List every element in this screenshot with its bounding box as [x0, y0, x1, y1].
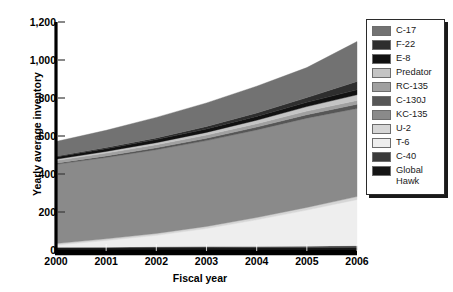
legend-item-label: Predator	[396, 67, 432, 78]
legend-item[interactable]: RC-135	[372, 81, 440, 93]
stacked-area-chart: Yearly average inventory 02004006008001,…	[0, 0, 453, 292]
x-tick-label: 2006	[334, 255, 380, 267]
legend-item-label: Global Hawk	[396, 165, 440, 187]
legend-item-label: KC-135	[396, 109, 428, 120]
legend-swatch-icon	[372, 138, 391, 148]
legend-item[interactable]: C-130J	[372, 95, 440, 107]
legend-item-label: C-40	[396, 151, 416, 162]
x-tick-label: 2004	[234, 255, 280, 267]
legend-item[interactable]: KC-135	[372, 109, 440, 121]
legend-item-label: RC-135	[396, 81, 428, 92]
legend-swatch-icon	[372, 124, 391, 134]
legend-swatch-icon	[372, 82, 391, 92]
legend-item[interactable]: T-6	[372, 137, 440, 149]
legend-item-label: C-17	[396, 25, 416, 36]
legend-swatch-icon	[372, 166, 391, 176]
legend-swatch-icon	[372, 26, 391, 36]
legend-swatch-icon	[372, 68, 391, 78]
legend-item[interactable]: C-17	[372, 25, 440, 37]
x-axis-title: Fiscal year	[40, 272, 360, 284]
legend-item[interactable]: Global Hawk	[372, 165, 440, 187]
legend-swatch-icon	[372, 152, 391, 162]
x-tick-label: 2000	[33, 255, 79, 267]
legend-item-label: U-2	[396, 123, 411, 134]
legend-swatch-icon	[372, 40, 391, 50]
legend-item-label: T-6	[396, 137, 409, 148]
x-tick-label: 2002	[133, 255, 179, 267]
legend-swatch-icon	[372, 96, 391, 106]
chart-legend: C-17F-22E-8PredatorRC-135C-130JKC-135U-2…	[366, 19, 445, 195]
legend-item[interactable]: C-40	[372, 151, 440, 163]
legend-swatch-icon	[372, 54, 391, 64]
x-tick-label: 2001	[83, 255, 129, 267]
x-tick-label: 2005	[284, 255, 330, 267]
legend-item-label: E-8	[396, 53, 410, 64]
legend-item[interactable]: F-22	[372, 39, 440, 51]
legend-item[interactable]: E-8	[372, 53, 440, 65]
legend-item[interactable]: Predator	[372, 67, 440, 79]
legend-item-label: C-130J	[396, 95, 426, 106]
legend-item[interactable]: U-2	[372, 123, 440, 135]
x-tick-label: 2003	[184, 255, 230, 267]
legend-item-label: F-22	[396, 39, 415, 50]
legend-swatch-icon	[372, 110, 391, 120]
area-series-group	[56, 42, 357, 250]
